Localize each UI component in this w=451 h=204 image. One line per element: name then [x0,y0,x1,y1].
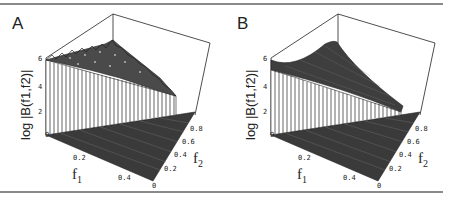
z-tick-4-b: 4 [263,83,267,91]
f2-tick-02-b: 0.2 [389,165,402,173]
panel-label-a: A [12,14,23,34]
surface-plot-a [0,0,226,204]
f2-tick-0-a: 0 [152,182,156,190]
panel-label-b: B [237,14,248,34]
panel-a: A log |B(f1,f2)| 6 4 2 0 0.2 0.4 0 0.2 0… [0,0,226,204]
f1-tick-04-a: 0.4 [118,174,131,182]
z-axis-label-b: log |B(f1,f2)| [243,70,258,140]
z-tick-4-a: 4 [38,83,42,91]
f2-tick-02-a: 0.2 [164,165,177,173]
f1-axis-label-a: f1 [72,166,82,185]
f1-axis-label-b: f1 [297,166,307,185]
f2-tick-08-b: 0.8 [415,125,428,133]
f1-tick-02-b: 0.2 [298,154,311,162]
f1-tick-04-b: 0.4 [343,174,356,182]
z-tick-6-b: 6 [263,55,267,63]
panel-b: B log |B(f1,f2)| 6 4 2 0 0.2 0.4 0 0.2 0… [225,0,451,204]
f2-tick-06-a: 0.6 [182,138,195,146]
f2-tick-06-b: 0.6 [407,138,420,146]
f2-axis-label-b: f2 [418,150,428,169]
z-tick-6-a: 6 [38,55,42,63]
z-tick-0-a: 0 [45,131,49,139]
z-axis-label-a: log |B(f1,f2)| [18,70,33,140]
f2-tick-0-b: 0 [377,182,381,190]
f2-tick-04-a: 0.4 [174,151,187,159]
f2-axis-label-a: f2 [193,150,203,169]
f1-tick-02-a: 0.2 [73,154,86,162]
f2-tick-08-a: 0.8 [190,125,203,133]
z-tick-2-a: 2 [38,108,42,116]
surface-plot-b [225,0,451,204]
f2-tick-04-b: 0.4 [399,151,412,159]
z-tick-0-b: 0 [270,131,274,139]
z-tick-2-b: 2 [263,108,267,116]
